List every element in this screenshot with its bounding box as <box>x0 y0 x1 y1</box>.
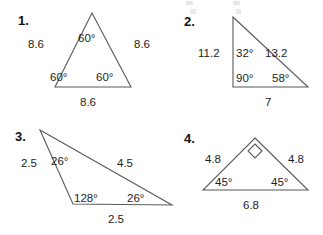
problem-2-angle-top: 32° <box>236 47 253 59</box>
problem-2: 2. 11.2 13.2 7 32° 90° 58° <box>184 14 308 108</box>
problem-3-side-left: 2.5 <box>21 157 37 169</box>
problem-4-side-right: 4.8 <box>288 153 304 165</box>
problem-4-side-bottom: 6.8 <box>243 199 259 211</box>
problem-4-number: 4. <box>184 131 195 146</box>
problem-1: 1. 8.6 8.6 8.6 60° 60° 60° <box>18 13 150 108</box>
problem-1-number: 1. <box>18 13 29 28</box>
problem-3: 3. 2.5 4.5 2.5 26° 128° 26° <box>15 129 172 225</box>
problem-2-side-left: 11.2 <box>198 47 220 59</box>
problem-4-side-left: 4.8 <box>205 153 221 165</box>
problem-3-triangle <box>40 130 172 205</box>
problem-2-angle-bottom-right: 58° <box>272 72 289 84</box>
problem-2-angle-bottom-left: 90° <box>236 72 253 84</box>
problem-3-number: 3. <box>15 129 26 144</box>
problem-1-angle-bottom-left: 60° <box>50 71 67 83</box>
problem-3-angle-bottom-left: 128° <box>74 192 98 204</box>
problem-3-side-right: 4.5 <box>117 157 133 169</box>
problem-3-angle-bottom-right: 26° <box>127 192 144 204</box>
problem-1-side-right: 8.6 <box>134 38 150 50</box>
problem-1-angle-top: 60° <box>78 32 95 44</box>
problem-1-angle-bottom-right: 60° <box>96 71 113 83</box>
problem-2-number: 2. <box>184 14 195 29</box>
triangles-figure: 1. 8.6 8.6 8.6 60° 60° 60° 2. 11.2 13.2 … <box>0 0 323 235</box>
problem-2-side-right: 13.2 <box>265 47 287 59</box>
problem-4-angle-bottom-right: 45° <box>271 176 288 188</box>
top-edge-artifact <box>186 1 241 14</box>
worksheet-page: 1. 8.6 8.6 8.6 60° 60° 60° 2. 11.2 13.2 … <box>0 0 323 235</box>
problem-1-side-bottom: 8.6 <box>80 96 96 108</box>
problem-1-side-left: 8.6 <box>28 38 44 50</box>
problem-2-side-bottom: 7 <box>265 96 271 108</box>
problem-4: 4. 4.8 4.8 6.8 45° 45° <box>184 131 308 211</box>
problem-3-angle-top: 26° <box>51 155 68 167</box>
problem-3-side-bottom: 2.5 <box>108 213 124 225</box>
problem-4-angle-bottom-left: 45° <box>215 176 232 188</box>
right-angle-icon <box>248 144 262 158</box>
